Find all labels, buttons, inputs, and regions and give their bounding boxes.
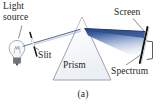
label-light-source-line2: source [3, 12, 28, 23]
prism-shape [53, 17, 111, 80]
panel-label: (a) [0, 89, 166, 99]
label-light-source: Light source [3, 1, 28, 23]
label-prism: Prism [63, 60, 86, 70]
label-spectrum: Spectrum [111, 66, 148, 76]
spectrum-bracket [147, 41, 153, 60]
label-slit: Slit [38, 50, 52, 60]
label-screen: Screen [114, 7, 140, 17]
light-bulb-icon [9, 41, 25, 66]
label-light-source-line1: Light [3, 1, 28, 12]
prism-dispersion-figure: Light source Slit Prism Screen Spectrum … [0, 0, 166, 108]
